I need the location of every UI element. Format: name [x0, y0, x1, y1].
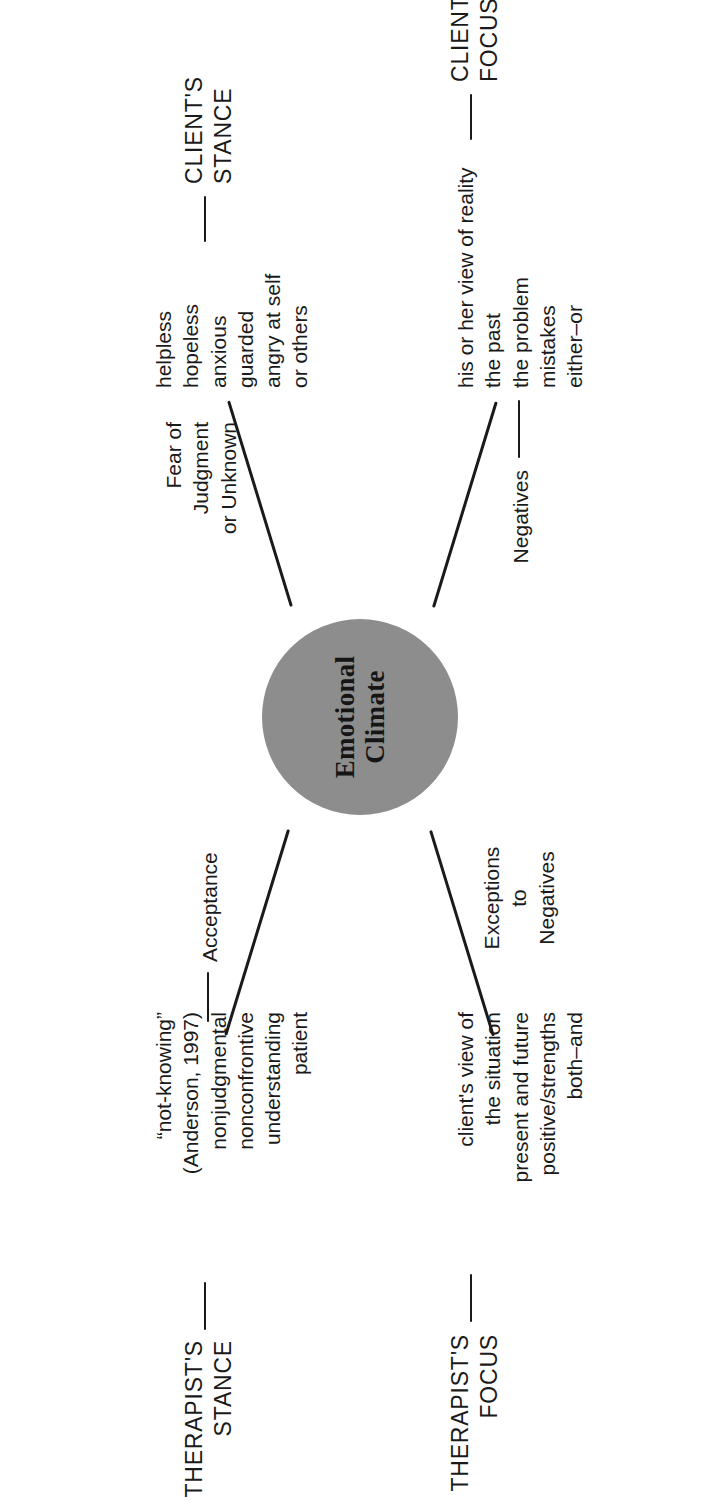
client-stance-item-3: anxious	[205, 274, 232, 388]
therapist-focus-link-line3: Negatives	[533, 818, 560, 978]
connector-dash-client-focus-negatives	[518, 400, 520, 458]
caption-therapist-stance: THERAPIST'S STANCE	[180, 1340, 237, 1501]
group-therapist-focus-items: client's view of the situation present a…	[452, 1012, 588, 1262]
client-focus-item-2: the past	[479, 167, 506, 388]
client-focus-item-3: the problem	[507, 167, 534, 388]
group-client-focus-link-label: Negatives	[507, 470, 534, 600]
connector-dash-client-focus	[470, 94, 472, 140]
client-stance-link-line3: or Unknown	[215, 422, 242, 572]
client-stance-item-4: guarded	[232, 274, 259, 388]
therapist-stance-caption-line2: STANCE	[209, 1340, 238, 1501]
therapist-focus-item-1: client's view of	[452, 1012, 479, 1262]
client-focus-item-5: either–or	[561, 167, 588, 388]
spoke-client-focus	[432, 401, 497, 607]
client-focus-item-4: mistakes	[534, 167, 561, 388]
client-stance-item-5: angry at self	[259, 274, 286, 388]
caption-client-stance: CLIENT'S STANCE	[180, 76, 237, 184]
client-stance-item-1: helpless	[150, 274, 177, 388]
therapist-stance-item-3: nonjudgmental	[205, 1012, 232, 1262]
connector-dash-client-stance	[204, 196, 206, 242]
therapist-focus-caption-line1: THERAPIST'S	[446, 1334, 475, 1501]
client-focus-caption-line2: FOCUS	[475, 0, 504, 82]
client-stance-caption-line2: STANCE	[209, 76, 238, 184]
therapist-focus-item-3: present and future	[507, 1012, 534, 1262]
client-stance-link-line1: Fear of	[160, 422, 187, 572]
therapist-focus-item-5: both–and	[561, 1012, 588, 1262]
therapist-focus-item-4: positive/strengths	[534, 1012, 561, 1262]
client-stance-link-line2: Judgment	[187, 422, 214, 572]
hub-label-line2: Climate	[360, 670, 390, 764]
therapist-focus-caption-line2: FOCUS	[475, 1334, 504, 1501]
therapist-stance-item-1: “not-knowing”	[150, 1012, 177, 1262]
therapist-stance-caption-line1: THERAPIST'S	[180, 1340, 209, 1501]
spoke-therapist-stance	[225, 829, 290, 1035]
connector-dash-therapist-focus	[470, 1274, 472, 1322]
therapist-stance-item-6: patient	[286, 1012, 313, 1262]
therapist-stance-link-label: Acceptance	[196, 852, 223, 962]
therapist-focus-link-line2: to	[505, 818, 532, 978]
hub-emotional-climate: Emotional Climate	[262, 619, 458, 815]
group-therapist-stance-items: “not-knowing” (Anderson, 1997) nonjudgme…	[150, 1012, 314, 1262]
client-focus-caption-line1: CLIENT'S	[446, 0, 475, 82]
connector-dash-therapist-stance	[204, 1282, 206, 1330]
client-stance-item-2: hopeless	[177, 274, 204, 388]
caption-therapist-focus: THERAPIST'S FOCUS	[446, 1334, 503, 1501]
client-focus-item-1: his or her view of reality	[452, 167, 479, 388]
hub-label-line1: Emotional	[330, 656, 360, 779]
therapist-stance-item-5: understanding	[259, 1012, 286, 1262]
therapist-stance-item-4: nonconfrontive	[232, 1012, 259, 1262]
therapist-stance-item-2: (Anderson, 1997)	[177, 1012, 204, 1262]
group-client-stance-items: helpless hopeless anxious guarded angry …	[150, 274, 314, 388]
group-client-stance-link-label: Fear of Judgment or Unknown	[160, 422, 242, 572]
caption-client-focus: CLIENT'S FOCUS	[446, 0, 503, 82]
group-therapist-focus-link-label: Exceptions to Negatives	[478, 818, 560, 978]
group-therapist-stance-link-label: Acceptance	[196, 852, 223, 962]
therapist-focus-link-line1: Exceptions	[478, 818, 505, 978]
client-stance-item-6: or others	[286, 274, 313, 388]
client-focus-link-label: Negatives	[507, 470, 534, 600]
therapist-focus-item-2: the situation	[479, 1012, 506, 1262]
group-client-focus-items: his or her view of reality the past the …	[452, 167, 588, 388]
client-stance-caption-line1: CLIENT'S	[180, 76, 209, 184]
